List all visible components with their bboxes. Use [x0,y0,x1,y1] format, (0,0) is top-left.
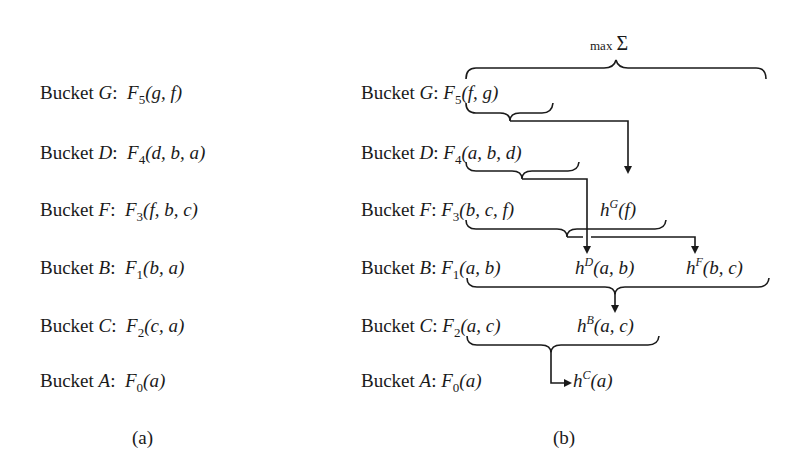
braces-and-arrows [0,0,805,468]
underbrace-f [466,220,666,237]
arrow-c-to-a [551,353,570,383]
underbrace-g [466,103,553,121]
overbrace-max-sum [466,60,766,79]
arrow-g-to-f [510,121,628,172]
underbrace-d [466,162,579,179]
underbrace-b [467,278,769,295]
arrow-d-to-b [522,179,587,252]
underbrace-c [467,336,659,353]
